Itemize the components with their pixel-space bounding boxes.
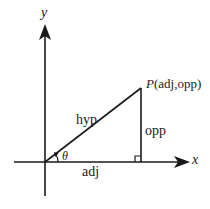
- point-label: P(adj,opp): [146, 77, 201, 90]
- right-triangle-diagram: y x hyp opp adj θ P(adj,opp): [0, 0, 210, 209]
- hypotenuse-label: hyp: [76, 113, 97, 127]
- angle-label: θ: [62, 150, 68, 162]
- adjacent-label: adj: [82, 165, 99, 179]
- right-angle-marker: [135, 156, 141, 162]
- point-name: P: [146, 76, 154, 91]
- x-axis-label: x: [192, 153, 198, 167]
- y-axis-label: y: [41, 6, 47, 20]
- diagram-canvas: [0, 0, 210, 209]
- point-coords: (adj,opp): [154, 76, 201, 91]
- opposite-label: opp: [145, 124, 166, 138]
